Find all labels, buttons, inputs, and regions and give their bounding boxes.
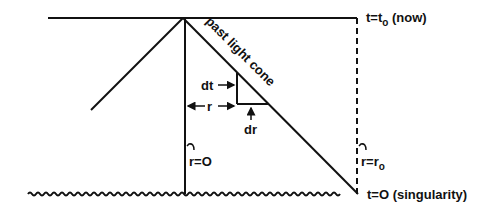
light-cone-diagram: dt r dr past light cone r=O r=ro t=to (n… bbox=[0, 0, 503, 214]
r-obs-label: r=ro bbox=[361, 154, 385, 172]
singularity-label: t=O (singularity) bbox=[367, 187, 467, 202]
left-cone-edge bbox=[91, 18, 183, 110]
r-obs-curved-arrow-icon bbox=[359, 144, 366, 150]
r-zero-curved-arrow-icon bbox=[187, 144, 194, 150]
singularity-line bbox=[28, 193, 340, 196]
r-zero-label: r=O bbox=[189, 154, 212, 169]
light-cone-label: past light cone bbox=[203, 14, 278, 89]
dr-label: dr bbox=[244, 122, 257, 137]
dt-label: dt bbox=[201, 78, 214, 93]
r-label: r bbox=[207, 99, 212, 114]
now-label: t=to (now) bbox=[366, 10, 427, 28]
